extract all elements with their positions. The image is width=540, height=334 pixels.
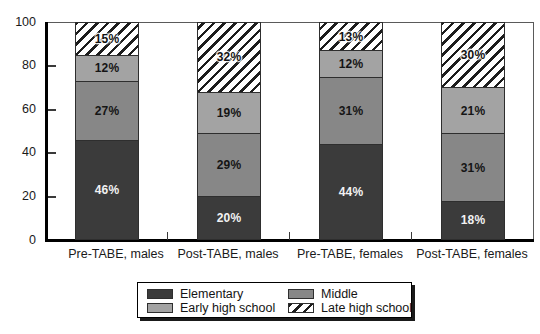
segment-value-label: 12% bbox=[339, 58, 363, 70]
legend-swatch-middle-icon bbox=[288, 289, 314, 299]
segment-early-high-school[interactable]: 21% bbox=[441, 87, 505, 133]
y-tick-label-80: 80 bbox=[2, 59, 36, 71]
y-tick-label-60: 60 bbox=[2, 103, 36, 115]
legend-swatch-early-high-school-icon bbox=[147, 303, 173, 313]
segment-late-high-school[interactable]: 32% bbox=[197, 22, 261, 92]
bar-pre-tabe-females[interactable]: 13% 12% 31% 44% bbox=[319, 22, 383, 240]
segment-value-label: 29% bbox=[217, 159, 241, 171]
plot-region: 100 80 60 40 20 0 15% 12% bbox=[6, 6, 534, 262]
segment-middle[interactable]: 31% bbox=[441, 133, 505, 201]
bar-pre-tabe-males[interactable]: 15% 12% 27% 46% bbox=[75, 22, 139, 240]
segment-value-label: 13% bbox=[339, 31, 363, 43]
figure-stacked-bar-chart: 100 80 60 40 20 0 15% 12% bbox=[0, 0, 540, 334]
legend-label-middle: Middle bbox=[321, 288, 358, 301]
bar-post-tabe-males[interactable]: 32% 19% 29% 20% bbox=[197, 22, 261, 240]
segment-late-high-school[interactable]: 15% bbox=[75, 22, 139, 55]
x-axis-label-post-tabe-females: Post-TABE, females bbox=[411, 247, 533, 261]
x-axis-label-pre-tabe-males: Pre-TABE, males bbox=[55, 247, 177, 261]
segment-elementary[interactable]: 20% bbox=[197, 196, 261, 240]
legend-swatch-late-high-school-icon bbox=[288, 303, 314, 313]
segment-value-label: 44% bbox=[339, 186, 363, 198]
bar-post-tabe-females[interactable]: 30% 21% 31% 18% bbox=[441, 22, 505, 240]
legend-entry-elementary[interactable]: Elementary bbox=[147, 288, 288, 301]
figure-caption bbox=[4, 325, 304, 334]
legend-grid: Elementary Middle Early high school Late… bbox=[147, 287, 403, 313]
legend-entry-middle[interactable]: Middle bbox=[288, 288, 412, 301]
legend-entry-late-high-school[interactable]: Late high school bbox=[288, 302, 412, 315]
segment-value-label: 20% bbox=[217, 212, 241, 224]
bars-layer: 15% 12% 27% 46% 32% 19% bbox=[45, 22, 534, 240]
segment-value-label: 18% bbox=[461, 214, 485, 226]
segment-elementary[interactable]: 46% bbox=[75, 140, 139, 240]
legend-label-early-high-school: Early high school bbox=[180, 302, 275, 315]
segment-value-label: 21% bbox=[461, 105, 485, 117]
legend-label-late-high-school: Late high school bbox=[321, 302, 412, 315]
x-axis-label-pre-tabe-females: Pre-TABE, females bbox=[289, 247, 411, 261]
chart-legend: Elementary Middle Early high school Late… bbox=[137, 282, 412, 318]
segment-late-high-school[interactable]: 13% bbox=[319, 22, 383, 50]
legend-swatch-elementary-icon bbox=[147, 289, 173, 299]
y-tick-label-0: 0 bbox=[2, 234, 36, 246]
segment-value-label: 31% bbox=[461, 162, 485, 174]
segment-value-label: 27% bbox=[95, 105, 119, 117]
segment-value-label: 31% bbox=[339, 105, 363, 117]
segment-elementary[interactable]: 44% bbox=[319, 144, 383, 240]
segment-value-label: 19% bbox=[217, 107, 241, 119]
x-axis-label-post-tabe-males: Post-TABE, males bbox=[167, 247, 289, 261]
segment-middle[interactable]: 29% bbox=[197, 133, 261, 196]
segment-value-label: 12% bbox=[95, 62, 119, 74]
segment-early-high-school[interactable]: 12% bbox=[319, 50, 383, 76]
y-tick-label-100: 100 bbox=[2, 16, 36, 28]
segment-elementary[interactable]: 18% bbox=[441, 201, 505, 240]
segment-middle[interactable]: 27% bbox=[75, 81, 139, 140]
segment-late-high-school[interactable]: 30% bbox=[441, 22, 505, 87]
segment-early-high-school[interactable]: 12% bbox=[75, 55, 139, 81]
y-tick-label-20: 20 bbox=[2, 190, 36, 202]
segment-value-label: 32% bbox=[217, 51, 241, 63]
segment-value-label: 46% bbox=[95, 184, 119, 196]
segment-value-label: 30% bbox=[461, 49, 485, 61]
segment-value-label: 15% bbox=[95, 33, 119, 45]
legend-entry-early-high-school[interactable]: Early high school bbox=[147, 302, 288, 315]
legend-label-elementary: Elementary bbox=[180, 288, 243, 301]
y-tick-label-40: 40 bbox=[2, 146, 36, 158]
segment-middle[interactable]: 31% bbox=[319, 77, 383, 145]
segment-early-high-school[interactable]: 19% bbox=[197, 92, 261, 133]
